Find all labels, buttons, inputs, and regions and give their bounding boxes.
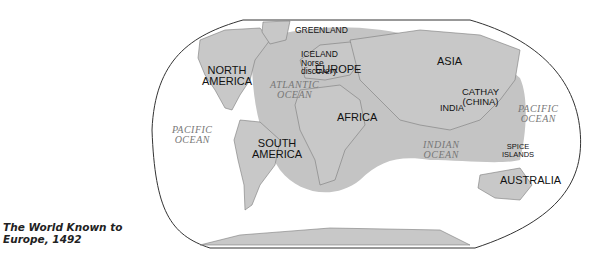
label-pacific-ocean-east: PACIFICOCEAN [518, 104, 559, 124]
label-cathay: CATHAY(CHINA) [462, 87, 499, 106]
label-pacific-ocean-west: PACIFICOCEAN [172, 125, 213, 145]
label-north-america: NORTHAMERICA [202, 65, 252, 87]
label-greenland: GREENLAND [295, 26, 348, 35]
label-spice-islands: SPICEISLANDS [502, 143, 534, 158]
label-iceland: ICELANDNorsediscovery [301, 50, 338, 76]
label-africa: AFRICA [337, 112, 377, 123]
label-atlantic-ocean: ATLANTICOCEAN [270, 80, 319, 100]
label-indian-ocean: INDIANOCEAN [423, 140, 459, 160]
label-india: INDIA [440, 104, 464, 113]
label-south-america: SOUTHAMERICA [252, 138, 302, 160]
world-map [0, 0, 600, 271]
label-australia: AUSTRALIA [500, 175, 561, 186]
label-asia: ASIA [437, 56, 462, 67]
